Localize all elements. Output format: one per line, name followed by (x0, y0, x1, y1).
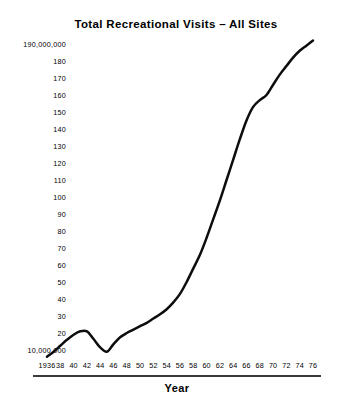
x-axis-tick-label: 50 (136, 361, 144, 370)
x-axis-title: Year (33, 382, 321, 394)
x-axis-tick-label: 54 (162, 361, 170, 370)
x-axis-tick-label: 70 (269, 361, 277, 370)
x-axis-tick-label: 48 (123, 361, 131, 370)
chart-page: Total Recreational Visits – All Sites 19… (0, 0, 352, 408)
x-axis-tick-label: 44 (96, 361, 104, 370)
x-axis-tick-label: 40 (69, 361, 77, 370)
x-axis-tick-label: 72 (282, 361, 290, 370)
x-axis-tick-label: 68 (256, 361, 264, 370)
x-axis-tick-label: 42 (83, 361, 91, 370)
x-axis-tick-label: 60 (202, 361, 210, 370)
x-axis-tick-label: 1936 (39, 361, 56, 370)
x-axis-tick-label: 38 (56, 361, 64, 370)
x-axis-tick-label: 62 (216, 361, 224, 370)
x-axis-tick-label: 58 (189, 361, 197, 370)
plot-area: 190,000,00018017016015014013012011010090… (0, 0, 352, 408)
x-axis-tick-label: 64 (229, 361, 237, 370)
x-axis-line (33, 375, 321, 377)
x-axis-tick-label: 74 (295, 361, 303, 370)
x-axis-tick-label: 76 (309, 361, 317, 370)
x-axis-tick-label: 66 (242, 361, 250, 370)
x-axis-tick-labels: 1936384042444648505254565860626466687072… (0, 0, 352, 408)
x-axis-tick-label: 46 (109, 361, 117, 370)
x-axis-tick-label: 56 (176, 361, 184, 370)
x-axis-tick-label: 52 (149, 361, 157, 370)
